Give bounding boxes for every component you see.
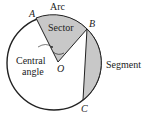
- point-c-label: C: [81, 103, 88, 114]
- central-angle-label-line1: Central: [16, 55, 46, 66]
- circle-diagram: Arc Sector Segment Central angle A B C O: [0, 0, 150, 120]
- arc-label: Arc: [50, 1, 66, 12]
- pointer-dot: [51, 46, 53, 48]
- point-a-label: A: [28, 8, 36, 19]
- sector-label: Sector: [48, 22, 74, 33]
- central-angle-label-line2: angle: [22, 66, 44, 77]
- segment-label: Segment: [106, 59, 141, 70]
- point-o-label: O: [57, 63, 64, 74]
- point-b-label: B: [89, 18, 95, 29]
